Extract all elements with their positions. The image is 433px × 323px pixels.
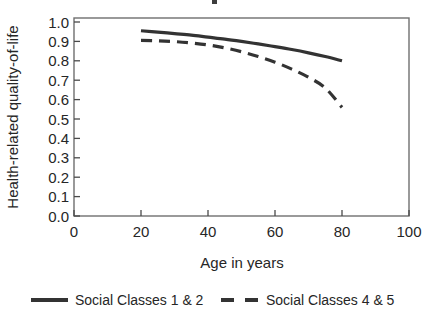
- y-tick-label: 0.9: [48, 33, 69, 50]
- x-tick-labels: 0 20 40 60 80 100: [70, 223, 422, 240]
- chart-svg: 1.0 0.9 0.8 0.7 0.6 0.5 0.4 0.3 0.2 0.1 …: [0, 0, 433, 323]
- x-tick-label: 100: [396, 223, 421, 240]
- y-tick-label: 0.6: [48, 91, 69, 108]
- chart-figure: 1.0 0.9 0.8 0.7 0.6 0.5 0.4 0.3 0.2 0.1 …: [0, 0, 433, 323]
- legend-label-social-classes-4-5: Social Classes 4 & 5: [266, 292, 395, 308]
- cropped-title-fragment: [212, 0, 217, 4]
- x-tick-label: 20: [133, 223, 150, 240]
- y-tick-label: 0.1: [48, 188, 69, 205]
- y-tick-label: 0.5: [48, 111, 69, 128]
- series-line-social-classes-4-5: [141, 40, 342, 107]
- x-axis-title: Age in years: [200, 254, 283, 271]
- y-tick-label: 0.3: [48, 149, 69, 166]
- y-tick-label: 0.4: [48, 130, 69, 147]
- plot-frame: [74, 18, 409, 216]
- series-line-social-classes-1-2: [141, 31, 342, 61]
- x-tick-label: 0: [70, 223, 78, 240]
- y-axis-title: Health-related quality-of-life: [4, 25, 21, 208]
- legend: Social Classes 1 & 2 Social Classes 4 & …: [31, 292, 395, 308]
- y-tick-label: 0.7: [48, 72, 69, 89]
- y-tick-label: 0.2: [48, 169, 69, 186]
- y-tick-label: 0.0: [48, 208, 69, 225]
- y-tick-labels: 1.0 0.9 0.8 0.7 0.6 0.5 0.4 0.3 0.2 0.1 …: [48, 14, 69, 225]
- legend-label-social-classes-1-2: Social Classes 1 & 2: [75, 292, 204, 308]
- y-tickmarks: [74, 22, 80, 216]
- x-tick-label: 80: [334, 223, 351, 240]
- y-tick-label: 1.0: [48, 14, 69, 31]
- x-tick-label: 60: [267, 223, 284, 240]
- x-tickmarks: [74, 210, 409, 216]
- series-group: [141, 31, 342, 108]
- x-tick-label: 40: [200, 223, 217, 240]
- y-tick-label: 0.8: [48, 52, 69, 69]
